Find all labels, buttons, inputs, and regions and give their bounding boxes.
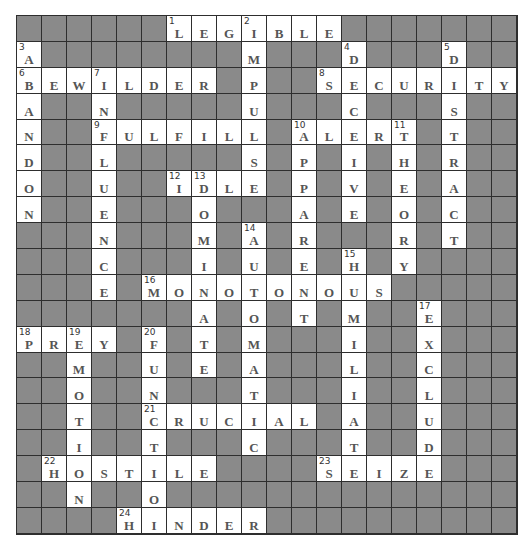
crossword-cell[interactable]: R [292,223,317,249]
crossword-cell[interactable]: C [92,249,117,275]
crossword-cell[interactable]: 10A [292,120,317,146]
crossword-cell[interactable]: P [242,68,267,94]
crossword-cell[interactable]: H [392,145,417,171]
crossword-cell[interactable]: E [292,249,317,275]
crossword-cell[interactable]: U [342,275,367,301]
crossword-cell[interactable]: 15H [342,249,367,275]
crossword-cell[interactable]: P [292,171,317,197]
crossword-cell[interactable]: O [192,197,217,223]
crossword-cell[interactable]: 14A [242,223,267,249]
crossword-cell[interactable]: E [217,508,242,534]
crossword-cell[interactable]: M [242,42,267,68]
crossword-cell[interactable]: L [217,171,242,197]
crossword-cell[interactable]: A [267,404,292,430]
crossword-cell[interactable]: S [242,145,267,171]
crossword-cell[interactable]: N [167,508,192,534]
crossword-cell[interactable]: A [192,301,217,327]
crossword-cell[interactable]: E [167,68,192,94]
crossword-cell[interactable]: E [242,171,267,197]
crossword-cell[interactable]: C [367,68,392,94]
crossword-cell[interactable]: P [292,145,317,171]
crossword-cell[interactable]: O [267,275,292,301]
crossword-cell[interactable]: N [17,197,42,223]
crossword-cell[interactable]: O [142,482,167,508]
crossword-cell[interactable]: R [42,327,67,353]
crossword-cell[interactable]: E [342,456,367,482]
crossword-cell[interactable]: O [317,275,342,301]
crossword-cell[interactable]: N [292,275,317,301]
crossword-cell[interactable]: C [242,430,267,456]
crossword-cell[interactable]: E [342,120,367,146]
crossword-cell[interactable]: T [242,378,267,404]
crossword-cell[interactable]: U [242,94,267,120]
crossword-cell[interactable]: I [142,508,167,534]
crossword-cell[interactable]: I [342,327,367,353]
crossword-cell[interactable]: L [92,145,117,171]
crossword-cell[interactable]: Y [392,249,417,275]
crossword-cell[interactable]: A [292,197,317,223]
crossword-cell[interactable]: E [192,16,217,42]
crossword-cell[interactable]: N [192,275,217,301]
crossword-cell[interactable]: X [417,327,442,353]
crossword-cell[interactable]: I [192,249,217,275]
crossword-cell[interactable]: N [92,94,117,120]
crossword-cell[interactable]: E [342,197,367,223]
crossword-cell[interactable]: R [242,508,267,534]
crossword-cell[interactable]: 2I [242,16,267,42]
crossword-cell[interactable]: T [442,120,467,146]
crossword-cell[interactable]: 11T [392,120,417,146]
crossword-cell[interactable]: V [342,171,367,197]
crossword-cell[interactable]: 7I [92,68,117,94]
crossword-cell[interactable]: R [392,223,417,249]
crossword-cell[interactable]: W [67,68,92,94]
crossword-cell[interactable]: 17E [417,301,442,327]
crossword-cell[interactable]: C [417,353,442,379]
crossword-cell[interactable]: N [67,482,92,508]
crossword-cell[interactable]: I [67,430,92,456]
crossword-cell[interactable]: M [342,301,367,327]
crossword-cell[interactable]: L [117,68,142,94]
crossword-cell[interactable]: E [92,275,117,301]
crossword-cell[interactable]: S [92,456,117,482]
crossword-cell[interactable]: R [417,68,442,94]
crossword-cell[interactable]: M [192,223,217,249]
crossword-cell[interactable]: R [367,120,392,146]
crossword-cell[interactable]: T [192,327,217,353]
crossword-cell[interactable]: G [217,16,242,42]
crossword-cell[interactable]: 12I [167,171,192,197]
crossword-cell[interactable]: O [217,275,242,301]
crossword-cell[interactable]: A [342,404,367,430]
crossword-cell[interactable]: U [192,404,217,430]
crossword-cell[interactable]: N [17,120,42,146]
crossword-cell[interactable]: R [442,145,467,171]
crossword-cell[interactable]: O [67,456,92,482]
crossword-cell[interactable]: L [342,353,367,379]
crossword-cell[interactable]: L [317,120,342,146]
crossword-cell[interactable]: U [117,120,142,146]
crossword-cell[interactable]: T [142,430,167,456]
crossword-cell[interactable]: 24H [117,508,142,534]
crossword-cell[interactable]: U [417,404,442,430]
crossword-cell[interactable]: O [67,378,92,404]
crossword-cell[interactable]: E [192,456,217,482]
crossword-cell[interactable]: 20F [142,327,167,353]
crossword-cell[interactable]: I [242,404,267,430]
crossword-cell[interactable]: D [417,430,442,456]
crossword-cell[interactable]: T [242,275,267,301]
crossword-cell[interactable]: L [142,120,167,146]
crossword-cell[interactable]: T [467,68,492,94]
crossword-cell[interactable]: R [167,404,192,430]
crossword-cell[interactable]: 22H [42,456,67,482]
crossword-cell[interactable]: D [17,145,42,171]
crossword-cell[interactable]: I [192,120,217,146]
crossword-cell[interactable]: S [367,275,392,301]
crossword-cell[interactable]: O [17,171,42,197]
crossword-cell[interactable]: 13D [192,171,217,197]
crossword-cell[interactable]: I [442,68,467,94]
crossword-cell[interactable]: D [142,68,167,94]
crossword-cell[interactable]: M [67,353,92,379]
crossword-cell[interactable]: E [392,171,417,197]
crossword-cell[interactable]: L [292,16,317,42]
crossword-cell[interactable]: N [142,378,167,404]
crossword-cell[interactable]: 18P [17,327,42,353]
